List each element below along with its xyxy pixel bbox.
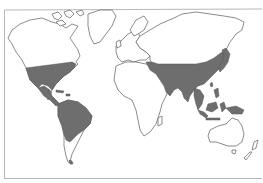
madagascar xyxy=(158,116,162,126)
world-map-svg xyxy=(0,0,263,183)
shaded-caribbean xyxy=(56,90,70,96)
shaded-indonesia xyxy=(198,102,226,120)
tasmania xyxy=(232,150,236,154)
shaded-new-guinea xyxy=(226,106,244,114)
shaded-northern-south-america xyxy=(58,100,92,142)
new-zealand xyxy=(244,140,258,160)
greenland xyxy=(88,10,116,44)
world-map xyxy=(0,0,263,183)
shaded-southeast-asia xyxy=(194,88,204,110)
british-isles xyxy=(116,40,121,48)
australia xyxy=(208,118,244,146)
shaded-philippines xyxy=(210,82,219,98)
shaded-tierra-del-fuego xyxy=(69,160,73,164)
